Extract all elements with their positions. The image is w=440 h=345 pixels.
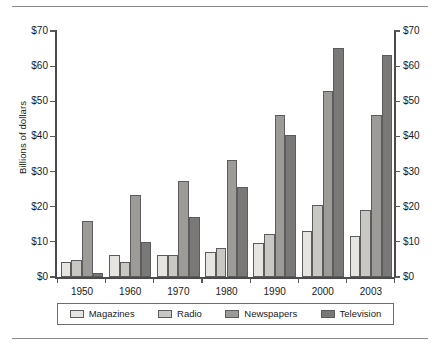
bar-television-1970 <box>189 217 200 277</box>
chart-page: Billions of dollars $0$0$10$10$20$20$30$… <box>0 0 440 345</box>
y-axis-tick-left <box>50 241 55 242</box>
bar-newspapers-1980 <box>227 160 238 277</box>
y-axis-label-left: $0 <box>37 272 48 282</box>
x-axis-label-1980: 1980 <box>215 287 237 297</box>
bar-radio-2000 <box>312 205 323 277</box>
y-axis-label-right: $30 <box>403 167 420 177</box>
y-axis-tick-right <box>395 206 400 207</box>
legend-label-newspapers: Newspapers <box>244 309 297 319</box>
bar-magazines-2003 <box>350 236 361 277</box>
y-axis-tick-right <box>395 241 400 242</box>
legend-item-newspapers[interactable]: Newspapers <box>225 309 297 319</box>
y-axis-left-line <box>55 30 57 278</box>
bar-magazines-1960 <box>109 255 120 277</box>
bar-radio-2003 <box>360 210 371 277</box>
top-divider-rule <box>12 6 428 7</box>
legend-swatch-magazines <box>70 310 84 318</box>
bar-television-1980 <box>237 187 248 277</box>
chart-legend: MagazinesRadioNewspapersTelevision <box>57 303 394 325</box>
y-axis-tick-right <box>395 276 400 277</box>
y-axis-tick-right <box>395 136 400 137</box>
legend-swatch-television <box>321 310 335 318</box>
bar-television-1960 <box>141 242 152 277</box>
legend-item-magazines[interactable]: Magazines <box>70 309 135 319</box>
bar-television-1990 <box>285 135 296 277</box>
y-axis-label-right: $0 <box>403 272 414 282</box>
y-axis-tick-right <box>395 101 400 102</box>
plot-area: $0$0$10$10$20$20$30$30$40$40$50$50$60$60… <box>57 31 394 277</box>
y-axis-label-left: $60 <box>31 61 48 71</box>
y-axis-label-left: $50 <box>31 96 48 106</box>
y-axis-tick-left <box>50 101 55 102</box>
bar-magazines-1970 <box>157 255 168 277</box>
bar-radio-1970 <box>168 255 179 277</box>
bar-newspapers-1990 <box>275 115 286 277</box>
x-axis-tick <box>394 278 395 283</box>
x-axis-label-1970: 1970 <box>167 287 189 297</box>
y-axis-label-right: $40 <box>403 131 420 141</box>
x-axis-label-1960: 1960 <box>119 287 141 297</box>
y-axis-tick-right <box>395 30 400 31</box>
x-axis-tick <box>153 278 154 283</box>
legend-item-radio[interactable]: Radio <box>158 309 202 319</box>
y-axis-label-left: $70 <box>31 26 48 36</box>
y-axis-label-left: $20 <box>31 202 48 212</box>
y-axis-label-right: $70 <box>403 26 420 36</box>
x-axis-label-2003: 2003 <box>360 287 382 297</box>
x-axis-label-2000: 2000 <box>312 287 334 297</box>
y-axis-tick-left <box>50 276 55 277</box>
bar-magazines-1980 <box>205 252 216 277</box>
x-axis-tick <box>298 278 299 283</box>
y-axis-label-right: $60 <box>403 61 420 71</box>
x-axis-tick <box>346 278 347 283</box>
bar-radio-1990 <box>264 234 275 277</box>
y-axis-label-left: $30 <box>31 167 48 177</box>
bar-newspapers-2000 <box>323 91 334 277</box>
y-axis-tick-left <box>50 206 55 207</box>
bottom-divider-rule <box>12 338 428 339</box>
bar-magazines-2000 <box>302 231 313 277</box>
bar-magazines-1990 <box>253 243 264 277</box>
legend-label-magazines: Magazines <box>89 309 135 319</box>
x-axis-label-1990: 1990 <box>264 287 286 297</box>
bar-television-2003 <box>382 55 393 277</box>
x-axis-tick <box>201 278 202 283</box>
legend-label-television: Television <box>340 309 382 319</box>
bar-radio-1980 <box>216 248 227 277</box>
legend-label-radio: Radio <box>177 309 202 319</box>
x-axis-tick <box>250 278 251 283</box>
y-axis-tick-left <box>50 171 55 172</box>
y-axis-tick-right <box>395 66 400 67</box>
x-axis-tick <box>105 278 106 283</box>
x-axis-tick <box>57 278 58 283</box>
bar-radio-1950 <box>71 260 82 277</box>
bar-newspapers-2003 <box>371 115 382 277</box>
x-axis-label-1950: 1950 <box>71 287 93 297</box>
x-axis-line <box>55 277 395 279</box>
bar-newspapers-1970 <box>178 181 189 277</box>
legend-swatch-newspapers <box>225 310 239 318</box>
y-axis-label-right: $50 <box>403 96 420 106</box>
bar-television-1950 <box>93 273 104 277</box>
bar-radio-1960 <box>120 262 131 277</box>
y-axis-title: Billions of dollars <box>17 78 28 198</box>
bar-magazines-1950 <box>61 262 72 277</box>
y-axis-tick-right <box>395 171 400 172</box>
legend-swatch-radio <box>158 310 172 318</box>
y-axis-tick-left <box>50 136 55 137</box>
y-axis-tick-left <box>50 66 55 67</box>
bar-television-2000 <box>333 48 344 277</box>
bar-newspapers-1960 <box>130 195 141 277</box>
legend-item-television[interactable]: Television <box>321 309 382 319</box>
y-axis-label-right: $20 <box>403 202 420 212</box>
bar-newspapers-1950 <box>82 221 93 277</box>
y-axis-tick-left <box>50 30 55 31</box>
y-axis-label-right: $10 <box>403 237 420 247</box>
y-axis-label-left: $10 <box>31 237 48 247</box>
y-axis-label-left: $40 <box>31 131 48 141</box>
